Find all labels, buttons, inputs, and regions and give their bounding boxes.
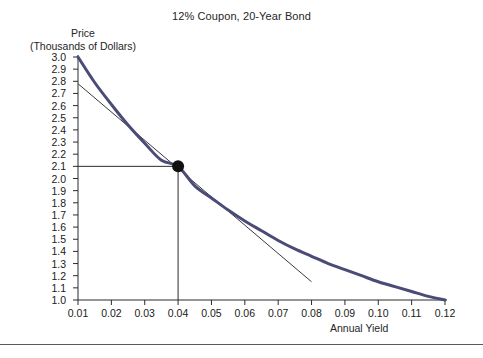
y-tick-label: 2.1 (36, 161, 66, 172)
y-tick-label: 2.7 (36, 88, 66, 99)
y-tick-label: 3.0 (36, 52, 66, 63)
y-tick-label: 2.4 (36, 125, 66, 136)
y-tick-label: 2.8 (36, 76, 66, 87)
y-tick-label: 1.2 (36, 271, 66, 282)
y-axis-label: Price (Thousands of Dollars) (8, 27, 158, 52)
y-tick-label: 2.3 (36, 137, 66, 148)
y-tick-label: 1.1 (36, 283, 66, 294)
x-axis-label: Annual Yield (330, 322, 388, 334)
y-axis-ticks (73, 57, 78, 300)
chart-title: 12% Coupon, 20-Year Bond (0, 10, 483, 22)
x-tick-label: 0.12 (425, 308, 465, 319)
x-axis-ticks (78, 300, 445, 305)
y-tick-label: 1.6 (36, 222, 66, 233)
y-tick-label: 1.3 (36, 259, 66, 270)
footer-divider (0, 344, 483, 345)
y-tick-label: 1.9 (36, 186, 66, 197)
y-tick-label: 2.6 (36, 101, 66, 112)
y-axis-label-line1: Price (8, 27, 158, 40)
series-group (78, 57, 445, 300)
price-yield-curve (78, 57, 445, 300)
y-tick-label: 2.5 (36, 113, 66, 124)
chart-figure: 12% Coupon, 20-Year Bond Price (Thousand… (0, 0, 483, 358)
axes-group (73, 55, 447, 305)
tangency-point-marker (172, 160, 184, 172)
y-tick-label: 1.0 (36, 295, 66, 306)
y-tick-label: 2.9 (36, 64, 66, 75)
plot-canvas (0, 0, 483, 358)
y-tick-label: 1.8 (36, 198, 66, 209)
reference-lines-group (78, 166, 178, 300)
y-tick-label: 1.5 (36, 234, 66, 245)
y-tick-label: 1.7 (36, 210, 66, 221)
y-tick-label: 1.4 (36, 246, 66, 257)
y-axis-label-line2: (Thousands of Dollars) (8, 40, 158, 53)
y-tick-label: 2.0 (36, 174, 66, 185)
tangent-line (78, 84, 312, 282)
y-tick-label: 2.2 (36, 149, 66, 160)
